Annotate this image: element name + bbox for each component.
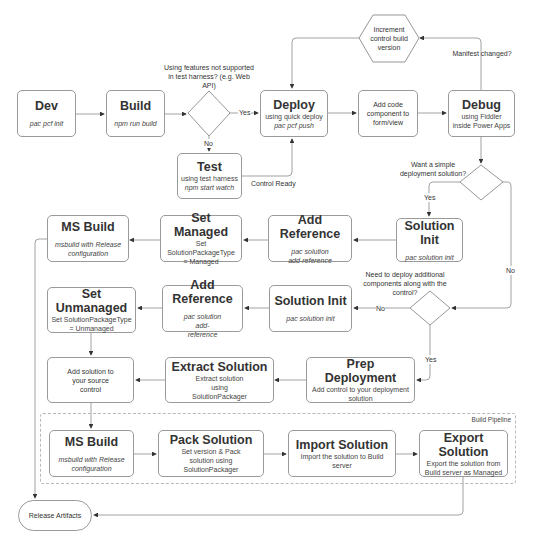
node-release-artifacts-text: Release Artifacts — [29, 511, 82, 520]
node-debug: Debug using Fiddler inside Power Apps — [448, 90, 515, 137]
node-set-managed-sub: Set SolutionPackageType = Managed — [159, 239, 243, 266]
node-add-reference-2: Add Reference pac solution add-reference — [162, 285, 243, 332]
node-solution-init-1-cmd: pac solution init — [405, 253, 453, 262]
node-solution-init-1-title: Solution Init — [400, 219, 459, 247]
edge-label-yes-deploy: Yes — [238, 108, 251, 117]
node-build-title: Build — [120, 99, 151, 113]
node-ms-build-2: MS Build msbuild with Release configurat… — [49, 430, 134, 477]
node-prep-deployment-title: Prep Deployment — [310, 357, 411, 385]
node-set-unmanaged-title: Set Unmanaged — [51, 287, 132, 315]
node-ms-build-1-cmd: msbuild with Release configuration — [51, 240, 125, 258]
decision-label-manifest-changed: Manifest changed? — [452, 49, 512, 58]
node-ms-build-1: MS Build msbuild with Release configurat… — [47, 215, 129, 262]
node-extract-solution: Extract Solution Extract solution using … — [165, 357, 274, 403]
node-debug-title: Debug — [462, 98, 501, 112]
node-release-artifacts: Release Artifacts — [18, 500, 92, 531]
node-dev-cmd: pac pcf init — [30, 119, 63, 128]
node-export-solution-sub: Export the solution from Build server as… — [423, 459, 504, 477]
node-add-reference-1-cmd: pac solution add-reference — [272, 247, 348, 265]
node-prep-deployment-sub: Add control to your deployment solution — [310, 385, 411, 403]
node-add-code: Add code component to form/view — [358, 90, 418, 137]
node-test-cmd: npm start watch — [185, 183, 234, 192]
node-solution-init-2: Solution Init pac solution init — [269, 285, 352, 332]
node-deploy: Deploy using quick deploy pac pcf push — [260, 90, 328, 137]
node-ms-build-2-title: MS Build — [65, 435, 118, 449]
node-solution-init-1: Solution Init pac solution init — [396, 218, 463, 262]
node-build: Build npm run build — [106, 90, 165, 137]
decision-label-simple-deploy: Want a simple deployment solution? — [393, 160, 473, 178]
decision-test-harness — [188, 91, 230, 136]
node-export-solution: Export Solution Export the solution from… — [419, 430, 508, 477]
node-prep-deployment: Prep Deployment Add control to your depl… — [306, 357, 415, 403]
node-add-reference-2-cmd: pac solution add-reference — [166, 312, 239, 339]
increment-version-label: Increment control build version — [363, 17, 415, 60]
node-set-managed: Set Managed Set SolutionPackageType = Ma… — [160, 215, 242, 262]
build-pipeline-label: Build Pipeline — [472, 416, 511, 423]
node-solution-init-2-title: Solution Init — [274, 294, 346, 308]
node-add-source-control-text: Add solution to your source control — [51, 367, 130, 394]
node-test-sub: using test harness — [181, 174, 238, 183]
node-deploy-sub: using quick deploy — [265, 112, 323, 121]
node-test-title: Test — [197, 160, 222, 174]
node-add-reference-2-title: Add Reference — [166, 278, 239, 306]
node-set-unmanaged-sub: Set SolutionPackageType = Unmanaged — [51, 315, 132, 333]
node-build-cmd: npm run build — [114, 119, 156, 128]
node-dev-title: Dev — [35, 99, 58, 113]
node-add-reference-1: Add Reference pac solution add-reference — [268, 215, 352, 262]
decision-label-additional-components: Need to deploy additional components alo… — [361, 270, 449, 297]
edge-label-no-test: No — [204, 139, 213, 148]
node-ms-build-1-title: MS Build — [61, 220, 114, 234]
node-debug-sub: using Fiddler inside Power Apps — [452, 112, 511, 130]
edge-label-yes-simple: Yes — [424, 193, 435, 202]
node-dev: Dev pac pcf init — [17, 90, 76, 137]
node-add-reference-1-title: Add Reference — [272, 213, 348, 241]
node-import-solution-sub: Import the solution to Build server — [292, 452, 392, 470]
node-ms-build-2-cmd: msbuild with Release configuration — [53, 455, 130, 473]
edge-label-control-ready: Control Ready — [251, 179, 296, 188]
node-deploy-cmd: pac pcf push — [274, 121, 314, 130]
edge-label-no-simple: No — [506, 266, 515, 275]
node-export-solution-title: Export Solution — [423, 431, 504, 459]
edge-label-yes-additional: Yes — [425, 355, 436, 364]
node-import-solution-title: Import Solution — [296, 438, 388, 452]
node-add-code-text: Add code component to form/view — [362, 100, 414, 127]
node-pack-solution-sub: Set version & Pack solution using Soluti… — [162, 447, 260, 474]
decision-label-test-harness: Using features not supported in test har… — [163, 63, 255, 90]
node-set-managed-title: Set Managed — [164, 211, 238, 239]
node-pack-solution: Pack Solution Set version & Pack solutio… — [158, 430, 264, 477]
node-test: Test using test harness npm start watch — [177, 153, 242, 199]
node-import-solution: Import Solution Import the solution to B… — [288, 430, 396, 477]
node-extract-solution-title: Extract Solution — [172, 360, 268, 374]
node-extract-solution-sub: Extract solution using SolutionPackager — [169, 374, 270, 401]
node-deploy-title: Deploy — [273, 98, 315, 112]
node-pack-solution-title: Pack Solution — [170, 433, 253, 447]
node-add-source-control: Add solution to your source control — [47, 357, 134, 403]
edge-label-no-additional: No — [376, 304, 385, 313]
node-set-unmanaged: Set Unmanaged Set SolutionPackageType = … — [47, 287, 136, 333]
node-solution-init-2-cmd: pac solution init — [286, 314, 334, 323]
